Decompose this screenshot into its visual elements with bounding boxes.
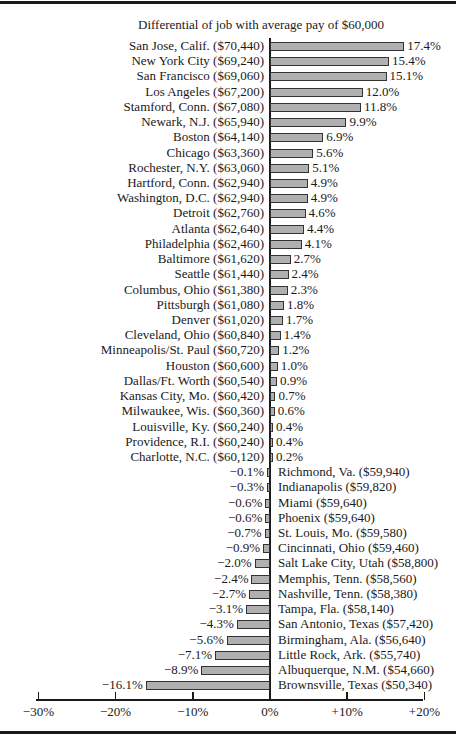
bar-row: Columbus, Ohio ($61,380)2.3% bbox=[0, 283, 456, 298]
bar-row: Los Angeles ($67,200)12.0% bbox=[0, 85, 456, 100]
bar-row: Cleveland, Ohio ($60,840)1.4% bbox=[0, 328, 456, 343]
value-label: −0.6% bbox=[228, 510, 262, 525]
value-label: 2.3% bbox=[291, 282, 318, 297]
value-label: −2.4% bbox=[214, 571, 248, 586]
value-label: 4.9% bbox=[311, 175, 338, 190]
bar-row: Brownsville, Texas ($50,340)−16.1% bbox=[0, 678, 456, 693]
bar-row: Salt Lake City, Utah ($58,800)−2.0% bbox=[0, 556, 456, 571]
bar-row: New York City ($69,240)15.4% bbox=[0, 54, 456, 69]
bar-row: Little Rock, Ark. ($55,740)−7.1% bbox=[0, 648, 456, 663]
category-label: Louisville, Ky. ($60,240) bbox=[132, 419, 264, 434]
category-label: Minneapolis/St. Paul ($60,720) bbox=[101, 342, 264, 357]
value-label: −8.9% bbox=[164, 662, 198, 677]
value-label: 6.9% bbox=[326, 129, 353, 144]
bar bbox=[246, 605, 270, 614]
bar bbox=[270, 423, 273, 432]
bar-row: Detroit ($62,760)4.6% bbox=[0, 206, 456, 221]
value-label: 4.4% bbox=[307, 221, 334, 236]
category-label: Memphis, Tenn. ($58,560) bbox=[278, 571, 417, 586]
category-label: San Francisco ($69,060) bbox=[137, 68, 264, 83]
bar bbox=[270, 255, 291, 264]
value-label: 2.7% bbox=[294, 251, 321, 266]
bar bbox=[263, 544, 270, 553]
category-label: Nashville, Tenn. ($58,380) bbox=[278, 586, 417, 601]
bar-row: Washington, D.C. ($62,940)4.9% bbox=[0, 191, 456, 206]
bar bbox=[251, 575, 270, 584]
bar bbox=[270, 270, 289, 279]
bar-row: Kansas City, Mo. ($60,420)0.7% bbox=[0, 389, 456, 404]
value-label: −2.0% bbox=[217, 555, 251, 570]
bar-row: Miami ($59,640)−0.6% bbox=[0, 496, 456, 511]
value-label: 0.7% bbox=[278, 388, 305, 403]
category-label: Cleveland, Ohio ($60,840) bbox=[125, 327, 264, 342]
x-tick bbox=[115, 692, 117, 700]
value-label: 17.4% bbox=[407, 38, 441, 53]
category-label: Stamford, Conn. ($67,080) bbox=[124, 99, 264, 114]
bar bbox=[270, 57, 389, 66]
bar bbox=[270, 301, 284, 310]
category-label: Indianapolis ($59,820) bbox=[278, 479, 396, 494]
bar-row: Chicago ($63,360)5.6% bbox=[0, 146, 456, 161]
value-label: 5.6% bbox=[316, 145, 343, 160]
bar bbox=[270, 407, 275, 416]
category-label: Seattle ($61,440) bbox=[174, 266, 264, 281]
value-label: −3.1% bbox=[209, 601, 243, 616]
bar-chart: San Jose, Calif. ($70,440)17.4%New York … bbox=[0, 0, 456, 755]
value-label: 5.1% bbox=[312, 160, 339, 175]
category-label: Little Rock, Ark. ($55,740) bbox=[278, 647, 420, 662]
category-label: Milwaukee, Wis. ($60,360) bbox=[121, 403, 264, 418]
bar bbox=[270, 103, 361, 112]
category-label: St. Louis, Mo. ($59,580) bbox=[278, 525, 407, 540]
value-label: −2.7% bbox=[212, 586, 246, 601]
bar-row: Seattle ($61,440)2.4% bbox=[0, 267, 456, 282]
x-tick-label: +20% bbox=[409, 704, 440, 720]
bar bbox=[270, 346, 279, 355]
x-tick-label: −10% bbox=[177, 704, 208, 720]
category-label: San Jose, Calif. ($70,440) bbox=[129, 38, 264, 53]
x-tick-label: −30% bbox=[23, 704, 54, 720]
bar bbox=[270, 42, 404, 51]
bar-row: San Jose, Calif. ($70,440)17.4% bbox=[0, 39, 456, 54]
category-label: Charlotte, N.C. ($60,120) bbox=[130, 449, 264, 464]
x-tick-label: +10% bbox=[332, 704, 363, 720]
bar bbox=[227, 636, 270, 645]
bar-row: Charlotte, N.C. ($60,120)0.2% bbox=[0, 450, 456, 465]
category-label: Baltimore ($61,620) bbox=[158, 251, 264, 266]
category-label: Philadelphia ($62,460) bbox=[145, 236, 264, 251]
category-label: Richmond, Va. ($59,940) bbox=[278, 464, 410, 479]
bar bbox=[270, 438, 273, 447]
category-label: Kansas City, Mo. ($60,420) bbox=[120, 388, 264, 403]
bar bbox=[270, 133, 323, 142]
category-label: Cincinnati, Ohio ($59,460) bbox=[278, 540, 419, 555]
value-label: 15.1% bbox=[390, 68, 424, 83]
x-tick bbox=[424, 692, 426, 700]
value-label: 1.7% bbox=[286, 312, 313, 327]
bar-row: San Antonio, Texas ($57,420)−4.3% bbox=[0, 617, 456, 632]
bar bbox=[146, 681, 270, 690]
value-label: 9.9% bbox=[349, 114, 376, 129]
value-label: 1.4% bbox=[284, 327, 311, 342]
category-label: Atlanta ($62,640) bbox=[172, 221, 264, 236]
bar-row: San Francisco ($69,060)15.1% bbox=[0, 69, 456, 84]
category-label: Boston ($64,140) bbox=[173, 129, 264, 144]
bar bbox=[270, 179, 308, 188]
value-label: 4.1% bbox=[305, 236, 332, 251]
bar-row: Dallas/Ft. Worth ($60,540)0.9% bbox=[0, 374, 456, 389]
value-label: 4.6% bbox=[309, 205, 336, 220]
category-label: Birmingham, Ala. ($56,640) bbox=[278, 632, 426, 647]
bar-row: Nashville, Tenn. ($58,380)−2.7% bbox=[0, 587, 456, 602]
bar-row: Boston ($64,140)6.9% bbox=[0, 130, 456, 145]
category-label: Dallas/Ft. Worth ($60,540) bbox=[124, 373, 264, 388]
bar bbox=[270, 331, 281, 340]
value-label: −0.6% bbox=[228, 495, 262, 510]
bar bbox=[237, 620, 270, 629]
bar bbox=[267, 468, 270, 477]
category-label: Brownsville, Texas ($50,340) bbox=[278, 677, 432, 692]
bar-row: Indianapolis ($59,820)−0.3% bbox=[0, 480, 456, 495]
bar bbox=[265, 529, 270, 538]
category-label: Providence, R.I. ($60,240) bbox=[125, 434, 264, 449]
category-label: Hartford, Conn. ($62,940) bbox=[127, 175, 264, 190]
bar bbox=[270, 164, 309, 173]
bar-row: Cincinnati, Ohio ($59,460)−0.9% bbox=[0, 541, 456, 556]
bar-row: Milwaukee, Wis. ($60,360)0.6% bbox=[0, 404, 456, 419]
